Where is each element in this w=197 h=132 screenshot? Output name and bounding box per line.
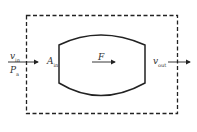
label-a-in: Ain <box>47 57 58 68</box>
body-shape <box>59 35 145 96</box>
label-v-out: vout <box>153 57 166 68</box>
control-volume-diagram <box>0 0 197 132</box>
label-v-in: vin <box>10 52 20 63</box>
label-p-a: Pa <box>10 66 19 77</box>
label-force: F <box>98 53 104 62</box>
